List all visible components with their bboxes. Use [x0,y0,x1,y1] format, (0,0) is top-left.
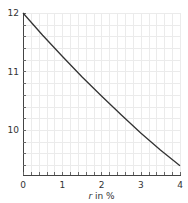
line-chart: 01234101112 r in % [0,0,188,203]
y-tick-label: 11 [8,67,19,77]
x-tick-label: 2 [99,180,105,190]
x-tick-label: 3 [138,180,144,190]
y-tick-label: 12 [8,8,19,18]
x-axis-label-unit: in % [92,191,115,201]
y-tick-label: 10 [8,125,20,135]
x-axis-label: r in % [88,191,115,201]
x-tick-label: 0 [20,180,26,190]
x-tick-label: 4 [177,180,183,190]
grid-lines [23,13,181,175]
x-tick-label: 1 [59,180,65,190]
